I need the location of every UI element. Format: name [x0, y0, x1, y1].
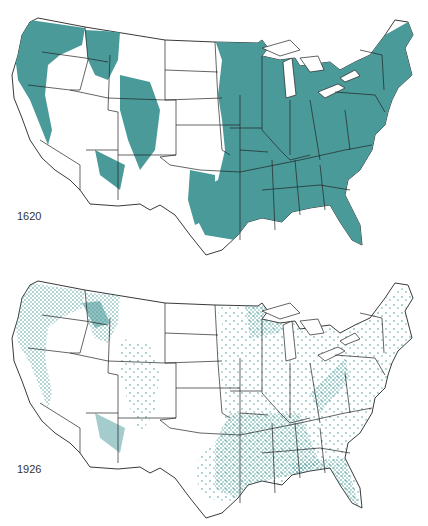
- map-1620: 1620: [0, 0, 428, 263]
- year-label-1620: 1620: [17, 210, 41, 222]
- year-label-1926: 1926: [17, 463, 41, 475]
- map-1926: 1926: [0, 263, 428, 526]
- us-map-1926: [0, 263, 428, 526]
- us-map-1620: [0, 0, 428, 263]
